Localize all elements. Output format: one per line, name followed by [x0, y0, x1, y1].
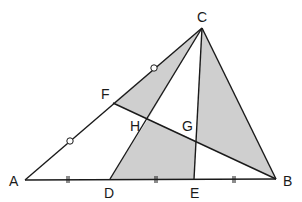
label-a: A — [9, 173, 19, 189]
shaded-triangle-cgb — [196, 28, 276, 179]
segment-ab — [25, 179, 276, 180]
label-b: B — [283, 173, 292, 189]
shaded-triangle-cfh — [113, 28, 202, 119]
circle-mark-af — [67, 138, 73, 144]
label-g: G — [182, 118, 193, 134]
label-c: C — [197, 9, 207, 25]
geometry-diagram: A B C D E F G H — [0, 0, 302, 202]
label-f: F — [101, 86, 110, 102]
label-e: E — [190, 185, 199, 201]
label-d: D — [104, 185, 114, 201]
label-h: H — [130, 118, 140, 134]
circle-mark-fc — [151, 65, 157, 71]
